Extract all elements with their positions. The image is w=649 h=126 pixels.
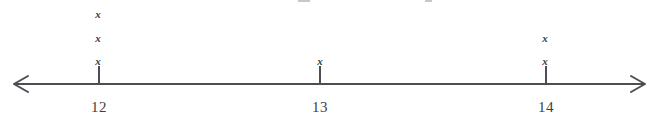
data-marker-x: x: [90, 9, 106, 20]
data-marker-x: x: [312, 56, 328, 67]
axis-tick-label: 14: [526, 100, 566, 115]
data-marker-x: x: [90, 33, 106, 44]
data-marker-x: x: [537, 56, 553, 67]
tick-mark: [545, 66, 547, 84]
data-marker-x: x: [537, 33, 553, 44]
tick-mark: [319, 66, 321, 84]
dot-plot-figure: 121314 xxxxxx: [0, 0, 649, 126]
axis-tick-label: 13: [300, 100, 340, 115]
axis-tick-label: 12: [79, 100, 119, 115]
data-marker-x: x: [90, 56, 106, 67]
tick-mark: [98, 66, 100, 84]
